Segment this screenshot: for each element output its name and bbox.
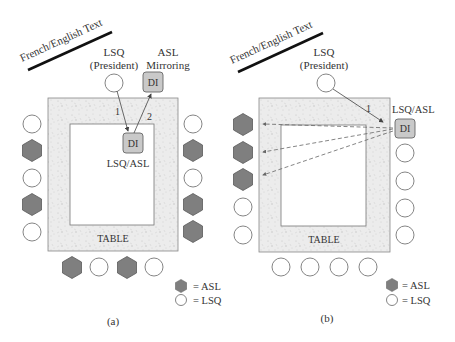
panel-b: French/English Text LSQ (President) TABL… [228, 18, 435, 325]
legend-asl-label: = ASL [402, 280, 430, 291]
di-center-label: DI [128, 138, 139, 149]
diagram-canvas: French/English Text LSQ (President) ASL … [0, 0, 455, 342]
seat-lsq [359, 258, 377, 276]
seat-asl [234, 142, 253, 164]
legend-asl-icon [175, 279, 186, 292]
panel-a: French/English Text LSQ (President) ASL … [18, 16, 222, 328]
president-seat-lsq [105, 74, 123, 92]
president-label-line1: LSQ [314, 46, 335, 58]
seat-asl [234, 114, 253, 136]
legend-lsq-icon [387, 295, 398, 306]
president-label-line2: (President) [90, 59, 139, 72]
seat-lsq [145, 258, 163, 276]
seat-lsq [272, 258, 290, 276]
president-seat-lsq [317, 74, 335, 92]
legend-asl-label: = ASL [193, 281, 221, 292]
table-b-center [281, 125, 366, 226]
seat-lsq [301, 258, 319, 276]
legend-b: = ASL = LSQ [386, 278, 431, 306]
legend-asl-icon [386, 278, 397, 291]
legend-lsq-icon [176, 295, 187, 306]
seat-lsq [23, 223, 41, 241]
legend-lsq-label: = LSQ [402, 295, 431, 306]
caption-a: (a) [107, 315, 120, 328]
seat-lsq [396, 226, 414, 244]
caption-b: (b) [321, 312, 334, 325]
di-center-box: DI [123, 133, 143, 153]
arrow-2-label: 2 [147, 111, 152, 122]
left-seats-a [23, 115, 42, 241]
bottom-seats-b [272, 258, 377, 276]
legend-a: = ASL = LSQ [175, 279, 222, 306]
seat-asl [23, 194, 42, 216]
seat-lsq [90, 258, 108, 276]
seat-lsq [396, 199, 414, 217]
seat-asl [234, 169, 253, 191]
right-seats-b [396, 144, 414, 244]
seat-asl [184, 194, 203, 216]
seat-lsq [23, 115, 41, 133]
seat-asl [23, 140, 42, 162]
seat-lsq [23, 169, 41, 187]
arrow-1-label: 1 [115, 106, 120, 117]
seat-asl [184, 221, 203, 243]
di-caption: LSQ/ASL [392, 104, 435, 115]
seat-lsq [396, 172, 414, 190]
right-seats-a [184, 115, 203, 243]
di-mirror-label: DI [148, 77, 159, 88]
seat-lsq [184, 115, 202, 133]
seat-lsq [184, 169, 202, 187]
mirroring-label-line2: Mirroring [146, 59, 190, 71]
banner-text: French/English Text [18, 16, 104, 64]
seat-asl [184, 140, 203, 162]
seat-lsq [234, 198, 252, 216]
president-label-line1: LSQ [104, 46, 125, 58]
seat-lsq [396, 144, 414, 162]
di-box: DI [395, 119, 415, 138]
bottom-seats-a [63, 257, 164, 279]
seat-asl [118, 257, 137, 279]
seat-asl [63, 257, 82, 279]
president-label-line2: (President) [300, 59, 349, 72]
seat-lsq [234, 226, 252, 244]
table-label: TABLE [308, 234, 339, 245]
table-label: TABLE [97, 233, 128, 244]
legend-lsq-label: = LSQ [193, 295, 222, 306]
seat-lsq [330, 258, 348, 276]
di-mirror-box: DI [143, 72, 163, 92]
mirroring-label-line1: ASL [158, 46, 179, 58]
arrow-1-label: 1 [366, 103, 371, 114]
left-seats-b [234, 114, 253, 245]
di-center-caption: LSQ/ASL [107, 158, 150, 169]
di-label: DI [400, 123, 411, 134]
